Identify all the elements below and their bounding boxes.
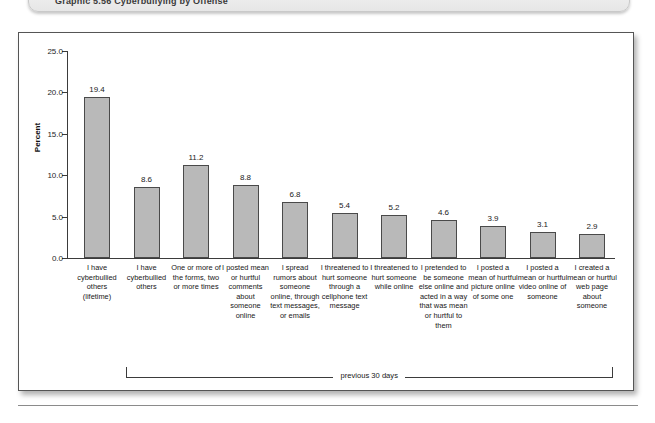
x-axis-category-label: I have cyberbullied others (lifetime) — [72, 263, 122, 301]
bar-value-label: 11.2 — [174, 153, 218, 162]
previous-30-days-bracket: previous 30 days — [126, 367, 613, 379]
x-axis-category-label: I posted mean or hurtful comments about … — [221, 263, 271, 321]
bar-value-label: 5.2 — [372, 203, 416, 212]
bar — [530, 232, 556, 258]
figure-caption-bar: Graphic 5.56 Cyberbullying by Offense — [28, 0, 630, 12]
y-axis-line — [67, 51, 68, 258]
bar-value-label: 3.1 — [521, 220, 565, 229]
y-axis-tick-label: 20.0 — [23, 88, 63, 97]
bar-value-label: 8.6 — [125, 175, 169, 184]
x-axis-category-label: I threatened to hurt someone through a c… — [320, 263, 370, 311]
bar — [134, 187, 160, 258]
bar — [480, 226, 506, 258]
x-axis-category-label: I spread rumors about someone online, th… — [270, 263, 320, 321]
x-axis-category-label: I created a mean or hurtful web page abo… — [567, 263, 617, 311]
x-axis-category-label: I posted a mean of hurtful picture onlin… — [468, 263, 518, 301]
bar-value-label: 4.6 — [422, 208, 466, 217]
y-axis-tick-label: 25.0 — [23, 47, 63, 56]
bar — [84, 97, 110, 258]
bar — [579, 234, 605, 258]
bar-value-label: 2.9 — [570, 222, 614, 231]
y-axis-tick-label: 0.0 — [23, 254, 63, 263]
figure-panel: Percent 0.05.010.015.020.025.0 19.48.611… — [18, 32, 634, 391]
page-divider-rule — [18, 405, 638, 406]
x-axis-category-label: I pretended to be someone else online an… — [419, 263, 469, 330]
bar — [431, 220, 457, 258]
bar — [381, 215, 407, 258]
bar — [233, 185, 259, 258]
bar-chart: Percent 0.05.010.015.020.025.0 19.48.611… — [19, 33, 635, 392]
x-axis-line — [67, 258, 615, 259]
bar-value-label: 6.8 — [273, 190, 317, 199]
bar — [332, 213, 358, 258]
y-axis-tick-label: 5.0 — [23, 213, 63, 222]
bar — [183, 165, 209, 258]
x-axis-category-label: I have cyberbullied others — [122, 263, 172, 292]
bar-value-label: 19.4 — [75, 85, 119, 94]
bar-value-label: 8.8 — [224, 173, 268, 182]
bar-value-label: 3.9 — [471, 214, 515, 223]
x-axis-category-label: One or more of the forms, two or more ti… — [171, 263, 221, 292]
bar-value-label: 5.4 — [323, 201, 367, 210]
x-axis-category-label: I posted a mean or hurtful video online … — [518, 263, 568, 301]
y-axis-tick-label: 10.0 — [23, 171, 63, 180]
figure-caption-text: Graphic 5.56 Cyberbullying by Offense — [55, 0, 228, 6]
bar — [282, 202, 308, 258]
bracket-label: previous 30 days — [126, 371, 613, 380]
x-axis-category-label: I threatened to hurt someone while onlin… — [369, 263, 419, 292]
y-axis-tick-label: 15.0 — [23, 130, 63, 139]
